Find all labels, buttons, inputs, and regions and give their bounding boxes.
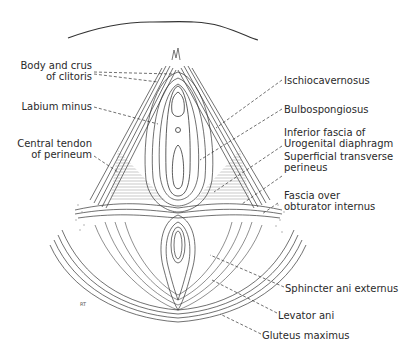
vestibule <box>166 86 190 196</box>
label-line: Gluteus maximus <box>262 330 350 341</box>
label-inferior-fascia: Inferior fascia of Urogenital diaphragm <box>284 127 393 149</box>
label-central-tendon: Central tendon of perineum <box>4 138 92 160</box>
sphincter-ani-externus <box>161 215 195 310</box>
label-superficial-transverse: Superficial transverse perineus <box>284 151 393 173</box>
label-ischiocavernosus: Ischiocavernosus <box>284 75 370 86</box>
label-line: of clitoris <box>6 71 92 82</box>
anatomy-drawing: RT <box>0 0 408 360</box>
label-body-crus-clitoris: Body and crus of clitoris <box>6 60 92 82</box>
body-contour <box>68 22 258 40</box>
perineum-diagram: RT Body and crus of clitoris Labium minu… <box>0 0 408 360</box>
label-line: Ischiocavernosus <box>284 75 370 86</box>
label-levator-ani: Levator ani <box>278 310 334 321</box>
label-line: Body and crus <box>6 60 92 71</box>
label-line: Fascia over <box>284 190 375 201</box>
label-fascia-obturator: Fascia over obturator internus <box>284 190 375 212</box>
artist-signature: RT <box>80 301 87 307</box>
label-line: Labium minus <box>6 101 92 112</box>
label-labium-minus: Labium minus <box>6 101 92 112</box>
label-gluteus-maximus: Gluteus maximus <box>262 330 350 341</box>
label-line: Bulbospongiosus <box>284 104 368 115</box>
label-line: Superficial transverse <box>284 151 393 162</box>
label-line: Central tendon <box>4 138 92 149</box>
label-line: obturator internus <box>284 201 375 212</box>
label-line: Inferior fascia of <box>284 127 393 138</box>
label-line: Sphincter ani externus <box>285 283 398 294</box>
label-sphincter-ani: Sphincter ani externus <box>285 283 398 294</box>
label-line: of perineum <box>4 149 92 160</box>
label-line: Urogenital diaphragm <box>284 138 393 149</box>
label-bulbospongiosus: Bulbospongiosus <box>284 104 368 115</box>
label-line: Levator ani <box>278 310 334 321</box>
label-line: perineus <box>284 162 393 173</box>
